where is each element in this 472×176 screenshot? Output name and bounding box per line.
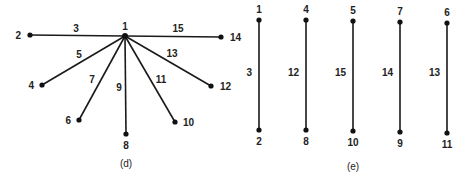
node-label: 6 xyxy=(444,7,450,18)
node-9 xyxy=(397,129,402,134)
graph-diagrams-canvas: 357911131512468101214 123481251015791461… xyxy=(0,0,472,176)
node-label: 9 xyxy=(397,138,403,149)
edge-1-12 xyxy=(125,36,211,86)
node-label: 1 xyxy=(122,21,128,32)
node-1 xyxy=(122,33,128,39)
caption-e: (e) xyxy=(347,161,359,172)
edge-label: 3 xyxy=(73,23,79,34)
node-label: 4 xyxy=(303,4,309,15)
diagram-d-star-graph: 357911131512468101214 xyxy=(15,21,241,151)
node-4 xyxy=(39,82,44,87)
edge-label: 11 xyxy=(156,74,167,85)
node-2 xyxy=(256,127,261,132)
node-8 xyxy=(303,127,308,132)
node-10 xyxy=(172,119,177,124)
node-6 xyxy=(76,117,81,122)
edge-label: 7 xyxy=(89,74,95,85)
node-label: 10 xyxy=(347,137,359,148)
edge-label: 15 xyxy=(335,67,347,78)
node-1 xyxy=(256,17,261,22)
node-label: 4 xyxy=(28,80,34,91)
node-5 xyxy=(350,18,355,23)
node-label: 8 xyxy=(303,136,309,147)
edge-label: 15 xyxy=(172,23,184,34)
edge-1-2 xyxy=(30,35,125,36)
edge-label: 13 xyxy=(429,67,441,78)
node-4 xyxy=(303,17,308,22)
caption-d: (d) xyxy=(120,158,132,169)
node-11 xyxy=(444,130,449,135)
node-label: 12 xyxy=(220,81,232,92)
edge-label: 9 xyxy=(116,82,122,93)
node-label: 10 xyxy=(183,117,195,128)
node-6 xyxy=(444,20,449,25)
node-label: 7 xyxy=(397,6,403,17)
node-label: 2 xyxy=(15,30,21,41)
node-label: 2 xyxy=(256,136,262,147)
edge-1-6 xyxy=(79,36,125,120)
node-label: 6 xyxy=(65,115,71,126)
node-8 xyxy=(123,131,128,136)
edge-1-8 xyxy=(125,36,126,134)
node-10 xyxy=(350,128,355,133)
edge-label: 3 xyxy=(246,67,252,78)
node-14 xyxy=(218,34,223,39)
edge-label: 5 xyxy=(76,49,82,60)
edge-label: 12 xyxy=(288,67,300,78)
node-label: 11 xyxy=(442,139,453,150)
node-label: 8 xyxy=(123,140,129,151)
node-label: 5 xyxy=(350,5,356,16)
node-7 xyxy=(397,19,402,24)
edge-1-4 xyxy=(42,36,125,85)
edge-label: 13 xyxy=(166,48,178,59)
node-label: 1 xyxy=(256,4,262,15)
edge-label: 14 xyxy=(382,67,394,78)
node-12 xyxy=(208,83,213,88)
edge-1-14 xyxy=(125,36,221,37)
node-label: 14 xyxy=(230,32,242,43)
node-2 xyxy=(27,32,32,37)
diagram-e-matching: 123481251015791461113 xyxy=(246,4,452,150)
